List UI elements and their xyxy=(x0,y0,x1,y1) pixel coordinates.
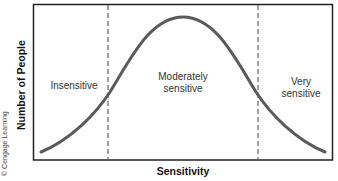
region-label-line: sensitive xyxy=(143,83,223,95)
region-label-line: Insensitive xyxy=(44,80,104,92)
region-label-line: Very xyxy=(276,76,326,88)
region-moderately-sensitive-label: Moderately sensitive xyxy=(143,71,223,95)
region-insensitive-label: Insensitive xyxy=(44,80,104,92)
region-very-sensitive-label: Very sensitive xyxy=(276,76,326,100)
x-axis-label: Sensitivity xyxy=(33,165,333,177)
copyright-notice: © Cengage Learning xyxy=(1,111,8,176)
region-label-line: sensitive xyxy=(276,88,326,100)
y-axis-label: Number of People xyxy=(15,40,27,130)
region-label-line: Moderately xyxy=(143,71,223,83)
